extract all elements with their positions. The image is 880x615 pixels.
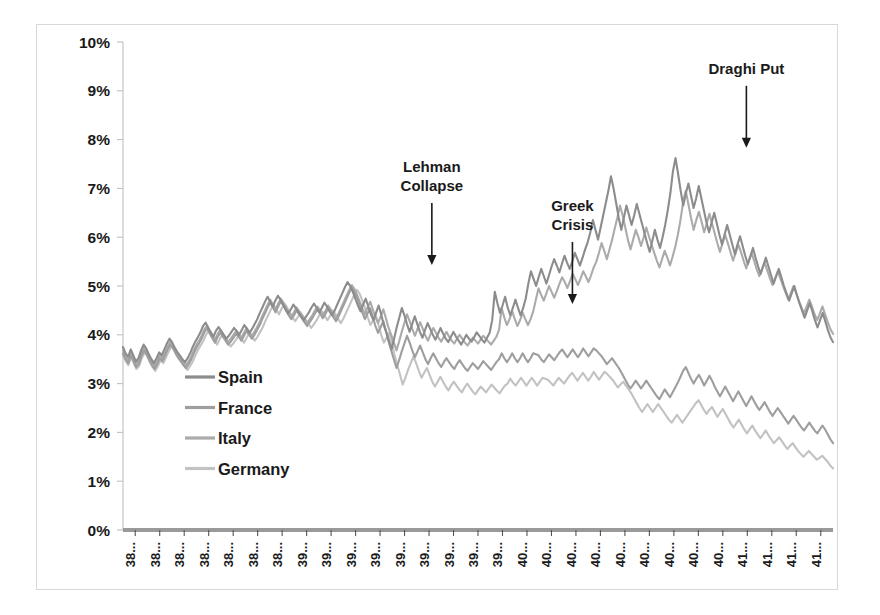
- legend-item-germany[interactable]: Germany: [185, 460, 290, 478]
- bond-yield-line-chart: 10%9%8%7%6%5%4%3%2%1%0%38...38...38...38…: [37, 25, 839, 591]
- legend-item-italy[interactable]: Italy: [185, 429, 252, 447]
- x-axis-tick-label: 40...: [686, 542, 701, 567]
- x-axis-tick-label: 39...: [295, 542, 310, 567]
- x-axis-tick-label: 40...: [588, 542, 603, 567]
- annotation-label: Greek: [551, 197, 594, 214]
- x-axis-tick-label: 40...: [564, 542, 579, 567]
- x-axis-tick-label: 41...: [735, 542, 750, 567]
- x-axis-tick-label: 38...: [172, 542, 187, 567]
- y-axis-tick-label: 6%: [88, 229, 111, 246]
- x-axis-tick-label: 39...: [319, 542, 334, 567]
- x-axis-tick-label: 38...: [221, 542, 236, 567]
- annotation-arrow-head: [568, 294, 577, 304]
- annotation-label: Draghi Put: [708, 60, 784, 77]
- x-axis-tick-label: 39...: [344, 542, 359, 567]
- x-axis-tick-label: 40...: [515, 542, 530, 567]
- series-line-italy: [123, 191, 833, 366]
- x-axis-tick-label: 40...: [711, 542, 726, 567]
- annotation-label: Collapse: [401, 177, 464, 194]
- annotation-label: Lehman: [403, 158, 461, 175]
- x-axis-tick-label: 40...: [637, 542, 652, 567]
- x-axis-tick-label: 40...: [613, 542, 628, 567]
- y-axis-tick-label: 0%: [88, 522, 111, 539]
- chart-plot-area: 10%9%8%7%6%5%4%3%2%1%0%38...38...38...38…: [37, 25, 837, 589]
- x-axis-tick-label: 38...: [148, 542, 163, 567]
- x-axis-tick-label: 39...: [490, 542, 505, 567]
- y-axis-tick-label: 1%: [88, 473, 111, 490]
- series-line-france: [123, 288, 833, 443]
- x-axis-tick-label: 38...: [123, 542, 138, 567]
- legend-item-france[interactable]: France: [185, 399, 272, 417]
- annotation-arrow-head: [427, 255, 436, 265]
- legend-label-spain: Spain: [218, 368, 263, 386]
- x-axis-tick-label: 39...: [417, 542, 432, 567]
- x-axis-tick-label: 41...: [809, 542, 824, 567]
- legend-label-germany: Germany: [218, 460, 290, 478]
- y-axis-tick-label: 10%: [79, 34, 110, 51]
- annotation-lehman-collapse: LehmanCollapse: [401, 158, 464, 265]
- x-axis-tick-label: 39...: [466, 542, 481, 567]
- legend-label-italy: Italy: [218, 429, 252, 447]
- x-axis-tick-label: 41...: [760, 542, 775, 567]
- x-axis-tick-label: 39...: [393, 542, 408, 567]
- y-axis-tick-label: 8%: [88, 131, 111, 148]
- y-axis-tick-label: 2%: [88, 424, 111, 441]
- series-line-spain: [123, 158, 833, 363]
- x-axis-tick-label: 40...: [539, 542, 554, 567]
- legend-label-france: France: [218, 399, 272, 417]
- annotation-arrow-head: [742, 138, 751, 148]
- y-axis-tick-label: 5%: [88, 278, 111, 295]
- chart-figure: 10%9%8%7%6%5%4%3%2%1%0%38...38...38...38…: [36, 24, 838, 590]
- x-axis-tick-label: 39...: [368, 542, 383, 567]
- legend-item-spain[interactable]: Spain: [185, 368, 263, 386]
- y-axis-tick-label: 7%: [88, 180, 111, 197]
- y-axis-tick-label: 9%: [88, 82, 111, 99]
- x-axis-tick-label: 38...: [270, 542, 285, 567]
- x-axis-tick-label: 38...: [197, 542, 212, 567]
- x-axis-tick-label: 39...: [442, 542, 457, 567]
- y-axis-tick-label: 4%: [88, 326, 111, 343]
- x-axis-tick-label: 38...: [246, 542, 261, 567]
- y-axis-tick-label: 3%: [88, 375, 111, 392]
- annotation-label: Crisis: [552, 216, 594, 233]
- x-axis-tick-label: 40...: [662, 542, 677, 567]
- x-axis-tick-label: 41...: [784, 542, 799, 567]
- annotation-draghi-put: Draghi Put: [708, 60, 784, 148]
